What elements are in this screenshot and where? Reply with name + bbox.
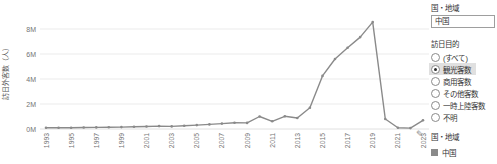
radio-option-2[interactable]: 商用客数 [429, 75, 476, 87]
svg-text:2013: 2013 [294, 133, 301, 148]
svg-text:1999: 1999 [118, 133, 125, 148]
legend-items: 中国 [431, 147, 497, 158]
svg-text:1997: 1997 [93, 133, 100, 148]
svg-text:8M: 8M [26, 26, 36, 33]
filter-panel: 国・地域 中国 訪日目的 (すべて)観光客数商用客数その他客数一時上陸客数不明 … [429, 0, 497, 164]
legend: ✎ 国・地域 中国 [431, 131, 497, 158]
legend-item-label: 中国 [442, 147, 456, 158]
purpose-radio-group: (すべて)観光客数商用客数その他客数一時上陸客数不明 [429, 51, 497, 123]
svg-text:2017: 2017 [344, 133, 351, 148]
country-dropdown[interactable]: 中国 [431, 15, 495, 28]
radio-option-3[interactable]: その他客数 [429, 87, 483, 99]
radio-label: 観光客数 [443, 64, 471, 75]
svg-text:2001: 2001 [143, 133, 150, 148]
radio-label: 商用客数 [443, 76, 471, 87]
pencil-icon[interactable]: ✎ [416, 129, 424, 139]
visitors-line-chart[interactable]: 0M2M4M6M8M199319951997199920012003200520… [0, 0, 432, 164]
legend-item[interactable]: 中国 [431, 147, 497, 158]
svg-text:0M: 0M [26, 126, 36, 133]
radio-icon [431, 113, 440, 122]
radio-icon [431, 53, 440, 62]
svg-text:2005: 2005 [193, 133, 200, 148]
svg-text:1993: 1993 [43, 133, 50, 148]
radio-option-5[interactable]: 不明 [429, 111, 462, 123]
radio-label: 不明 [443, 112, 457, 123]
radio-icon [431, 101, 440, 110]
purpose-filter-label: 訪日目的 [431, 38, 497, 49]
svg-text:2007: 2007 [218, 133, 225, 148]
svg-text:訪日外客数（人）: 訪日外客数（人） [1, 44, 10, 100]
radio-option-1[interactable]: 観光客数 [429, 63, 476, 75]
radio-option-4[interactable]: 一時上陸客数 [429, 99, 490, 111]
dashboard: 0M2M4M6M8M199319951997199920012003200520… [0, 0, 497, 164]
svg-text:2011: 2011 [269, 133, 276, 148]
country-dropdown-value: 中国 [435, 17, 449, 26]
svg-text:2015: 2015 [319, 133, 326, 148]
radio-option-0[interactable]: (すべて) [429, 51, 473, 63]
radio-label: 一時上陸客数 [443, 100, 485, 111]
radio-label: その他客数 [443, 88, 478, 99]
radio-icon [431, 77, 440, 86]
svg-text:1995: 1995 [68, 133, 75, 148]
svg-text:2019: 2019 [369, 133, 376, 148]
radio-icon [431, 89, 440, 98]
legend-title: 国・地域 [431, 131, 497, 142]
radio-icon [431, 65, 440, 74]
radio-label: (すべて) [443, 52, 468, 63]
svg-text:2021: 2021 [394, 133, 401, 148]
svg-text:2M: 2M [26, 101, 36, 108]
country-filter-label: 国・地域 [431, 2, 497, 13]
svg-text:6M: 6M [26, 51, 36, 58]
svg-text:2009: 2009 [244, 133, 251, 148]
svg-text:4M: 4M [26, 76, 36, 83]
svg-text:2003: 2003 [168, 133, 175, 148]
legend-swatch-icon [431, 149, 438, 156]
